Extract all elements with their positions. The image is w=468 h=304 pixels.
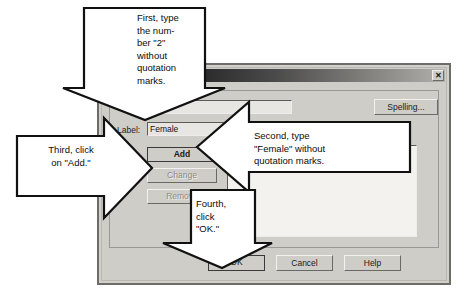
screenshot-root: Value Labels ✕ Value Labels Value: 2 Lab… — [0, 0, 468, 304]
cancel-button[interactable]: Cancel — [276, 255, 333, 271]
label-field-label: Label: — [117, 125, 140, 135]
callout-4-text: Fourth, click "OK." — [196, 198, 251, 236]
value-field-label: Value: — [117, 103, 140, 113]
ok-button[interactable]: OK — [208, 255, 265, 271]
callout-3-text: Third, click on "Add." — [21, 144, 121, 169]
spss-variable-icon — [95, 72, 108, 85]
spelling-button[interactable]: Spelling... — [374, 99, 438, 115]
add-button[interactable]: Add — [147, 147, 217, 162]
callout-1-text: First, type the num- ber "2" without quo… — [137, 12, 209, 87]
callout-2-text: Second, type "Female" without quotation … — [254, 130, 404, 168]
help-button[interactable]: Help — [344, 255, 401, 271]
change-button: Change — [147, 168, 217, 183]
close-icon[interactable]: ✕ — [432, 70, 444, 81]
value-labels-dialog: Value Labels ✕ Value Labels Value: 2 Lab… — [97, 63, 451, 285]
value-input[interactable]: 2 — [147, 100, 292, 114]
